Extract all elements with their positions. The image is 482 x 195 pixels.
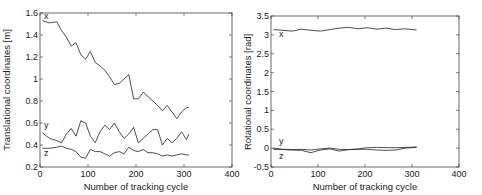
x-tick-label: 100: [80, 169, 95, 179]
x-tick-label: 200: [357, 169, 372, 179]
y-tick-label: 0.5: [256, 124, 269, 134]
series-label-z: z: [44, 148, 49, 158]
y-tick-label: 1: [33, 74, 38, 84]
series-line-z: [42, 146, 188, 158]
y-tick-label: 1.5: [256, 87, 269, 97]
plot-frame: [40, 13, 232, 167]
y-tick-label: 0: [264, 143, 269, 153]
y-tick-label: 1.4: [25, 30, 38, 40]
y-tick-label: 0.2: [25, 162, 38, 172]
x-tick-label: 300: [176, 169, 191, 179]
series-line-x: [42, 21, 188, 119]
y-tick-label: 3.5: [256, 11, 269, 21]
y-tick-label: 1.2: [25, 52, 38, 62]
x-tick-label: 400: [224, 169, 239, 179]
x-tick-label: 200: [128, 169, 143, 179]
series-line-y: [42, 121, 188, 145]
series-line-x: [273, 27, 416, 31]
series-line-y: [273, 147, 416, 150]
plot-frame: [271, 16, 459, 167]
series-label-x: x: [279, 29, 284, 39]
right-x-axis-label: Number of tracking cycle: [313, 181, 418, 192]
x-tick-label: 100: [310, 169, 325, 179]
x-tick-label: 0: [268, 169, 273, 179]
y-tick-label: 2.5: [256, 49, 269, 59]
y-tick-label: 1.6: [25, 8, 38, 18]
y-tick-label: 0.8: [25, 96, 38, 106]
right-y-axis-label: Rotational coordinates [rad]: [242, 34, 253, 150]
x-tick-label: 400: [451, 169, 466, 179]
series-label-y: y: [279, 136, 284, 146]
series-label-z: z: [279, 151, 284, 161]
y-tick-label: 0.4: [25, 140, 38, 150]
y-tick-label: 0.6: [25, 118, 38, 128]
y-tick-label: 3: [264, 30, 269, 40]
series-label-x: x: [44, 11, 49, 21]
x-tick-label: 300: [404, 169, 419, 179]
figure: 01002003004000.20.40.60.811.21.41.6xyz 0…: [0, 0, 482, 195]
rotational-plot: 0100200300400-0.500.511.522.533.5xyz: [253, 11, 466, 179]
x-tick-label: 0: [37, 169, 42, 179]
translational-plot: 01002003004000.20.40.60.811.21.41.6xyz: [25, 8, 239, 179]
series-label-y: y: [44, 120, 49, 130]
left-y-axis-label: Translational coordinates [m]: [1, 29, 12, 151]
series-line-z: [273, 147, 416, 152]
y-tick-label: 2: [264, 68, 269, 78]
y-tick-label: 1: [264, 105, 269, 115]
left-x-axis-label: Number of tracking cycle: [84, 181, 189, 192]
y-tick-label: -0.5: [253, 162, 269, 172]
